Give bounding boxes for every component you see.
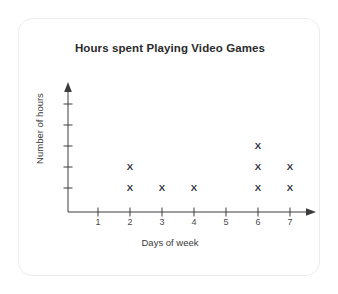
data-point-marker: X <box>123 162 137 172</box>
x-tick-label: 3 <box>153 217 171 227</box>
y-axis-arrowhead <box>64 82 72 92</box>
x-tick-label: 7 <box>281 217 299 227</box>
x-axis-label: Days of week <box>19 237 321 248</box>
x-tick-label: 1 <box>89 217 107 227</box>
data-point-marker: X <box>251 162 265 172</box>
x-tick-label: 2 <box>121 217 139 227</box>
x-axis-arrowhead <box>306 208 316 216</box>
x-tick-label: 4 <box>185 217 203 227</box>
data-point-marker: X <box>283 162 297 172</box>
x-tick-label: 6 <box>249 217 267 227</box>
y-axis-label: Number of hours <box>34 77 45 181</box>
data-point-marker: X <box>155 183 169 193</box>
data-point-marker: X <box>251 141 265 151</box>
x-tick-label: 5 <box>217 217 235 227</box>
plot-area: Number of hours Days of week 1234567 XXX… <box>19 19 321 277</box>
chart-card: Hours spent Playing Video Games <box>18 18 320 276</box>
data-point-marker: X <box>187 183 201 193</box>
data-point-marker: X <box>283 183 297 193</box>
data-point-marker: X <box>123 183 137 193</box>
data-point-marker: X <box>251 183 265 193</box>
